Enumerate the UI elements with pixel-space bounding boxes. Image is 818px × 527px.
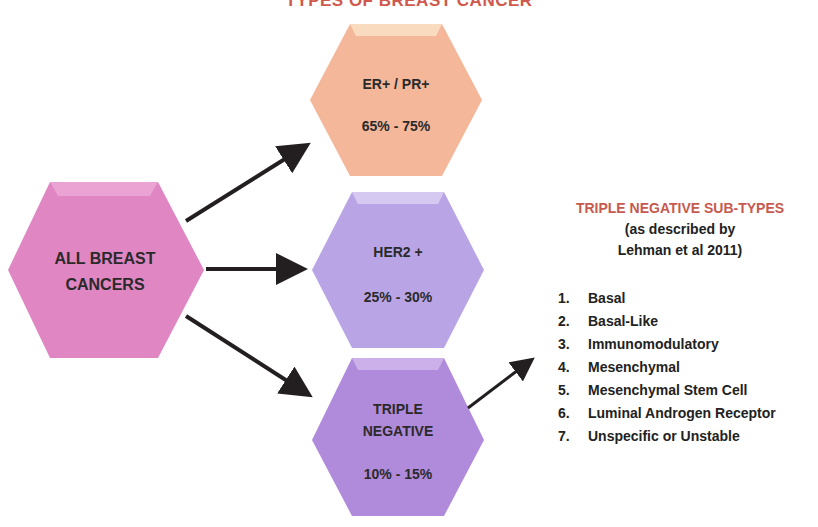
item-label: Mesenchymal Stem Cell bbox=[588, 382, 748, 398]
item-number: 6. bbox=[558, 402, 588, 425]
subtypes-list: 1.Basal 2.Basal-Like 3.Immunomodulatory … bbox=[558, 287, 776, 448]
item-label: Basal-Like bbox=[588, 313, 658, 329]
her2-range: 25% - 30% bbox=[328, 289, 468, 305]
arrow-to-triple-negative bbox=[186, 316, 306, 393]
item-number: 2. bbox=[558, 310, 588, 333]
subtypes-source-line2: Lehman et al 2011) bbox=[545, 240, 815, 261]
item-number: 4. bbox=[558, 356, 588, 379]
er-pr-label: ER+ / PR+ bbox=[326, 76, 466, 92]
list-item: 4.Mesenchymal bbox=[558, 356, 776, 379]
item-label: Luminal Androgen Receptor bbox=[588, 405, 776, 421]
triple-label-line2: NEGATIVE bbox=[328, 420, 468, 442]
item-number: 5. bbox=[558, 379, 588, 402]
list-item: 3.Immunomodulatory bbox=[558, 333, 776, 356]
arrow-to-er-pr bbox=[186, 147, 304, 221]
list-item: 5.Mesenchymal Stem Cell bbox=[558, 379, 776, 402]
triple-label-line1: TRIPLE bbox=[328, 398, 468, 420]
item-label: Mesenchymal bbox=[588, 359, 680, 375]
list-item: 6.Luminal Androgen Receptor bbox=[558, 402, 776, 425]
item-label: Immunomodulatory bbox=[588, 336, 719, 352]
subtypes-source-line1: (as described by bbox=[545, 219, 815, 240]
subtypes-heading: TRIPLE NEGATIVE SUB-TYPES bbox=[545, 200, 815, 216]
item-number: 3. bbox=[558, 333, 588, 356]
list-item: 1.Basal bbox=[558, 287, 776, 310]
triple-negative-range: 10% - 15% bbox=[328, 466, 468, 482]
hexagon-er-pr bbox=[310, 24, 482, 176]
item-number: 1. bbox=[558, 287, 588, 310]
subtypes-header: TRIPLE NEGATIVE SUB-TYPES (as described … bbox=[545, 200, 815, 261]
triple-negative-label: TRIPLE NEGATIVE bbox=[328, 398, 468, 442]
root-label-line2: CANCERS bbox=[30, 272, 180, 298]
item-label: Unspecific or Unstable bbox=[588, 428, 740, 444]
list-item: 2.Basal-Like bbox=[558, 310, 776, 333]
her2-label: HER2 + bbox=[328, 244, 468, 260]
arrow-to-subtypes bbox=[468, 361, 530, 408]
item-label: Basal bbox=[588, 290, 625, 306]
hexagon-her2 bbox=[312, 192, 484, 348]
item-number: 7. bbox=[558, 425, 588, 448]
root-label: ALL BREAST CANCERS bbox=[30, 246, 180, 298]
root-label-line1: ALL BREAST bbox=[30, 246, 180, 272]
list-item: 7.Unspecific or Unstable bbox=[558, 425, 776, 448]
er-pr-range: 65% - 75% bbox=[326, 118, 466, 134]
